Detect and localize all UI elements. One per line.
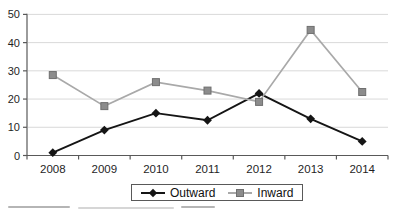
outward-data-point [306,114,315,123]
y-tick-label: 20 [8,93,20,105]
x-tick-label: 2010 [143,163,169,175]
legend-label-inward: Inward [257,187,293,199]
cropped-caption-fragment [8,206,70,208]
x-tick-label: 2011 [195,163,220,175]
y-tick-label: 40 [8,37,20,49]
outward-data-point [203,116,212,125]
y-tick-label: 30 [8,65,20,77]
legend-item-inward: Inward [228,187,293,199]
fdi-line-chart-figure: 010203040502008200920102011201220132014 … [0,0,396,209]
chart-legend: Outward Inward [131,184,303,201]
outward-data-point [152,109,161,118]
x-tick-label: 2014 [349,163,375,175]
y-tick-label: 0 [14,150,20,162]
legend-item-outward: Outward [141,187,215,199]
inward-data-point [359,89,366,96]
x-tick-label: 2009 [92,163,118,175]
outward-data-point [358,137,367,146]
y-tick-label: 50 [8,8,20,20]
x-tick-label: 2012 [246,163,272,175]
cropped-caption-fragment [78,207,174,209]
inward-data-point [152,79,159,86]
inward-data-point [204,87,211,94]
legend-label-outward: Outward [170,187,215,199]
cropped-caption-fragment [181,206,215,209]
outward-diamond-marker-icon [141,188,165,198]
line-chart-plot-area: 010203040502008200920102011201220132014 [0,0,396,180]
inward-data-point [101,103,108,110]
inward-data-point [49,72,56,79]
x-tick-label: 2008 [40,163,66,175]
inward-data-point [256,98,263,105]
inward-series-line [53,30,362,106]
y-tick-label: 10 [8,121,20,133]
inward-square-marker-icon [228,188,252,198]
inward-data-point [307,26,314,33]
x-tick-label: 2013 [298,163,324,175]
